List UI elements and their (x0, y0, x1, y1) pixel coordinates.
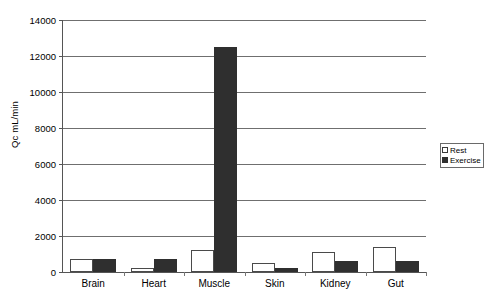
legend-item-exercise[interactable]: Exercise (442, 155, 481, 165)
hollow-square-icon (442, 147, 448, 153)
x-tick-mark (305, 272, 306, 276)
x-tick-mark (426, 272, 427, 276)
bar-brain-exercise (93, 259, 116, 273)
y-tick-label: 12000 (30, 51, 56, 62)
y-axis-label: Qc mL/min (9, 75, 20, 175)
y-tick-label: 4000 (35, 195, 56, 206)
bar-brain-rest (70, 259, 93, 273)
bars-layer (63, 20, 426, 272)
x-tick-mark (124, 272, 125, 276)
bar-kidney-rest (312, 252, 335, 272)
x-tick-label-gut: Gut (356, 278, 436, 289)
bar-group (245, 20, 306, 272)
y-tick-label: 6000 (35, 159, 56, 170)
bar-group (184, 20, 245, 272)
bar-kidney-exercise (335, 261, 358, 272)
bar-group (124, 20, 185, 272)
legend-item-rest[interactable]: Rest (442, 145, 481, 155)
y-tick-label: 8000 (35, 123, 56, 134)
chart-legend: RestExercise (440, 143, 484, 168)
bar-group (366, 20, 427, 272)
bar-muscle-exercise (214, 47, 237, 272)
bar-group (63, 20, 124, 272)
bar-skin-rest (252, 263, 275, 272)
y-tick-label: 0 (51, 267, 56, 278)
filled-square-icon (442, 157, 448, 163)
bar-skin-exercise (275, 268, 298, 272)
bar-gut-exercise (396, 261, 419, 272)
legend-label: Rest (450, 146, 466, 155)
bar-group (305, 20, 366, 272)
x-tick-mark (245, 272, 246, 276)
bar-chart-figure: Qc mL/min 020004000600080001000012000140… (0, 0, 493, 306)
y-tick-label: 14000 (30, 15, 56, 26)
x-tick-mark (184, 272, 185, 276)
legend-label: Exercise (450, 156, 481, 165)
bar-muscle-rest (191, 250, 214, 272)
bar-heart-rest (131, 268, 154, 273)
y-tick-mark (59, 272, 63, 273)
bar-gut-rest (373, 247, 396, 272)
y-tick-label: 2000 (35, 231, 56, 242)
y-tick-label: 10000 (30, 87, 56, 98)
bar-heart-exercise (154, 259, 177, 273)
x-tick-mark (366, 272, 367, 276)
plot-area: 02000400060008000100001200014000 BrainHe… (62, 20, 426, 273)
